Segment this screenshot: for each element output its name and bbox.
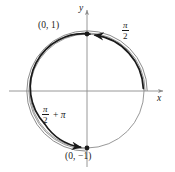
- point-bottom-label: (0, −1): [65, 152, 92, 162]
- fraction-denominator: 2: [122, 32, 129, 41]
- fraction-numerator: π: [42, 105, 49, 114]
- point-top-dot: [85, 32, 90, 37]
- point-top-label: (0, 1): [38, 21, 59, 31]
- unit-circle-wrapping-figure: y x (0, 1) (0, −1) π 2 π 2 + π: [0, 0, 175, 172]
- arc-label-pi-over-2-plus-pi: π 2 + π: [42, 105, 65, 126]
- traced-arc-first-revolution-stroke: [95, 35, 143, 88]
- traced-arc-first-revolution: [95, 35, 143, 88]
- fraction-pi-over-2: π 2: [42, 105, 49, 126]
- point-bottom-dot: [85, 146, 90, 151]
- fraction-numerator: π: [122, 21, 129, 30]
- fraction-denominator: 2: [42, 116, 49, 125]
- plus-pi-term: + π: [51, 111, 66, 121]
- y-axis-label: y: [79, 4, 83, 14]
- fraction-pi-over-2: π 2: [122, 21, 129, 42]
- pi-symbol: π: [61, 110, 66, 120]
- arc-label-pi-over-2: π 2: [122, 21, 129, 42]
- x-axis-label: x: [157, 94, 161, 104]
- figure-canvas: [0, 0, 175, 172]
- traced-arc-second-revolution: [30, 34, 90, 147]
- plus-sign: +: [53, 110, 58, 120]
